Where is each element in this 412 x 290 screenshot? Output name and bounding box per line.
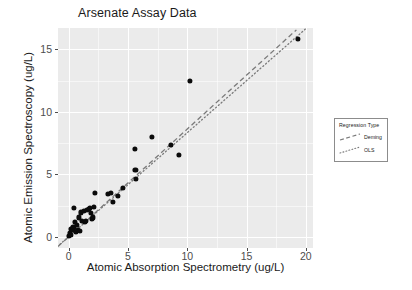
y-tick-label: 10 <box>36 106 52 118</box>
y-tick-label: 15 <box>36 43 52 55</box>
y-tick-mark <box>55 49 58 50</box>
legend-title: Regression Type <box>339 122 379 128</box>
x-axis-label: Atomic Absorption Spectrometry (ug/L) <box>58 261 313 273</box>
y-tick-label: 5 <box>36 168 52 180</box>
regression-line-ols <box>60 29 306 245</box>
x-tick-mark <box>306 248 307 251</box>
plot-panel <box>58 28 313 248</box>
regression-lines <box>58 28 313 248</box>
x-tick-mark <box>247 248 248 251</box>
legend-key-dotted-icon <box>339 144 361 156</box>
y-tick-label: 0 <box>36 231 52 243</box>
y-axis-label: Atomic Emission Spectroscopy (ug/L) <box>22 52 34 243</box>
legend: Regression Type Deming OLS <box>334 118 388 162</box>
legend-item-deming[interactable]: Deming <box>339 131 385 143</box>
y-tick-mark <box>55 174 58 175</box>
chart-root: Arsenate Assay Data 05101520 051015 Atom… <box>0 0 412 290</box>
y-tick-mark <box>55 112 58 113</box>
legend-label-ols: OLS <box>364 147 374 153</box>
legend-key-dashed-icon <box>339 131 361 143</box>
y-tick-mark <box>55 237 58 238</box>
chart-title: Arsenate Assay Data <box>78 6 197 20</box>
legend-label-deming: Deming <box>364 134 382 140</box>
legend-item-ols[interactable]: OLS <box>339 144 385 156</box>
x-tick-mark <box>128 248 129 251</box>
x-tick-mark <box>187 248 188 251</box>
x-tick-mark <box>69 248 70 251</box>
